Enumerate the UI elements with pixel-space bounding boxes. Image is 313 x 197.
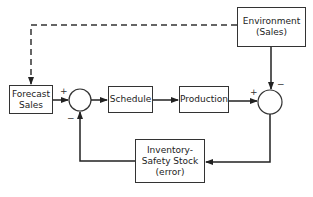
arrow-junction-to-inventory (206, 114, 270, 162)
environment-label-line1: Environment (243, 16, 300, 27)
environment-label-line2: (Sales) (256, 27, 287, 38)
inventory-label-line1: Inventory- (147, 145, 193, 156)
diagram-canvas: Environment (Sales) Forecast Sales Sched… (0, 0, 313, 197)
summing-junction-left (69, 89, 91, 111)
forecast-label-line1: Forecast (12, 89, 50, 100)
right-junction-plus: + (250, 87, 258, 97)
schedule-label: Schedule (110, 94, 151, 105)
arrow-inventory-to-junction (80, 112, 135, 161)
inventory-label-line3: (error) (156, 167, 185, 178)
dashed-forecast-line (31, 25, 237, 84)
schedule-block: Schedule (108, 86, 153, 113)
inventory-block: Inventory- Safety Stock (error) (135, 139, 205, 183)
production-label: Production (180, 94, 228, 105)
environment-block: Environment (Sales) (237, 7, 306, 47)
summing-junction-right (258, 90, 282, 114)
forecast-sales-block: Forecast Sales (9, 85, 53, 114)
right-junction-minus: − (277, 79, 285, 89)
inventory-label-line2: Safety Stock (142, 156, 199, 167)
forecast-label-line2: Sales (19, 100, 43, 111)
production-block: Production (179, 86, 229, 113)
left-junction-minus: − (67, 113, 75, 123)
left-junction-plus: + (60, 86, 68, 96)
